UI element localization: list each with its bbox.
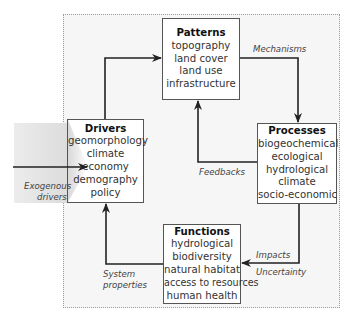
exogenous-drivers-label-line2: drivers xyxy=(37,192,67,202)
feedbacks-arrow xyxy=(198,101,257,162)
uncertainty-label: Uncertainty xyxy=(256,267,306,277)
system-properties-label-line1: System xyxy=(103,269,135,279)
system-properties-label-line2: properties xyxy=(103,280,147,290)
mechanisms-arrow xyxy=(240,58,298,122)
feedbacks-label: Feedbacks xyxy=(199,167,245,177)
system-properties-arrow xyxy=(106,204,163,264)
drivers-to-patterns-arrow xyxy=(105,58,161,119)
mechanisms-label: Mechanisms xyxy=(253,44,306,54)
impacts-label: Impacts xyxy=(256,250,290,260)
exogenous-drivers-label-line1: Exogenous xyxy=(24,181,71,191)
